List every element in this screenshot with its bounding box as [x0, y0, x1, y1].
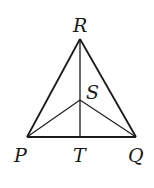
label-p: P [13, 144, 28, 166]
label-r: R [72, 14, 87, 36]
segment-pr [27, 39, 80, 137]
segment-ps [27, 100, 80, 137]
label-q: Q [128, 144, 144, 166]
segment-qs [80, 100, 136, 137]
label-s: S [86, 81, 99, 103]
label-t: T [73, 144, 87, 166]
triangle-diagram: R S P T Q [0, 0, 154, 188]
